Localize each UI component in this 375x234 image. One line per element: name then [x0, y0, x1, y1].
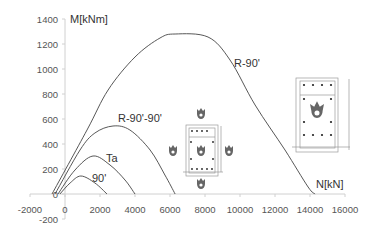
- x-tick-label: 12000: [262, 204, 288, 215]
- fire-icon: [225, 145, 233, 156]
- fire-icon: [197, 108, 205, 119]
- label-ta: Ta: [106, 152, 119, 164]
- x-axis-title: N[kN]: [316, 178, 344, 190]
- fire-icon: [310, 101, 324, 118]
- y-axis-title: M[kNm]: [70, 13, 108, 25]
- x-tick-label: 14000: [297, 204, 323, 215]
- label-90: 90': [92, 172, 106, 184]
- x-tick-label: 10000: [227, 204, 253, 215]
- curves-group: [52, 34, 315, 194]
- fire-icon: [197, 178, 205, 189]
- x-tick-label: 0: [62, 204, 67, 215]
- y-tick-label: 1400: [37, 14, 58, 25]
- y-tick-label: -200: [39, 214, 58, 225]
- x-tick-label: 6000: [159, 204, 180, 215]
- label-r90-90: R-90'-90': [118, 112, 162, 124]
- fire-icon: [169, 145, 177, 156]
- y-tick-label: 1200: [37, 39, 58, 50]
- interaction-diagram-chart: -2000200400600800100012001400 -200002000…: [0, 0, 375, 234]
- x-tick-label: 8000: [194, 204, 215, 215]
- x-tick-label: 2000: [89, 204, 110, 215]
- curve-r-90: [52, 34, 315, 194]
- x-tick-label: 4000: [124, 204, 145, 215]
- y-tick-label: 400: [42, 139, 58, 150]
- cross-section-large-inset: [292, 78, 350, 152]
- x-tick-label: 16000: [332, 204, 358, 215]
- y-tick-label: 1000: [37, 64, 58, 75]
- label-r90: R-90': [234, 57, 260, 69]
- y-tick-label: 200: [42, 164, 58, 175]
- x-axis-ticks: -200002000400060008000100001200014000160…: [18, 194, 358, 215]
- cross-section-small-inset: [169, 108, 233, 189]
- y-tick-label: 600: [42, 114, 58, 125]
- y-tick-label: 800: [42, 89, 58, 100]
- x-tick-label: -2000: [18, 204, 42, 215]
- fire-icon: [197, 145, 205, 156]
